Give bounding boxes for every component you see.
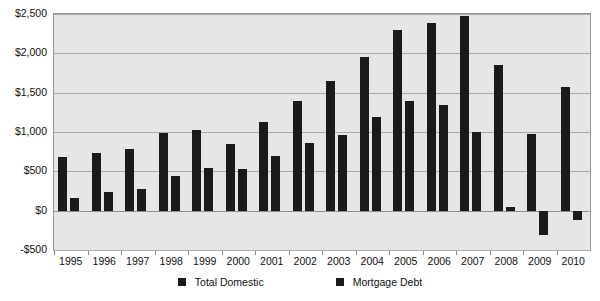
bar-total-domestic-2001 (259, 122, 268, 211)
bar-group (222, 14, 256, 250)
bar-mortgage-debt-1995 (70, 198, 79, 211)
x-tick-mark (423, 251, 424, 255)
x-tick-label: 2000 (222, 256, 256, 267)
bar-group (88, 14, 122, 250)
bar-group (155, 14, 189, 250)
x-tick-mark (255, 251, 256, 255)
x-tick-mark (155, 251, 156, 255)
bar-group (121, 14, 155, 250)
legend-label: Total Domestic (195, 277, 264, 288)
x-tick-mark (322, 251, 323, 255)
bar-group (356, 14, 390, 250)
x-tick-label: 2007 (456, 256, 490, 267)
x-tick-label: 1995 (54, 256, 88, 267)
bar-total-domestic-2008 (494, 65, 503, 211)
bar-mortgage-debt-1999 (204, 168, 213, 211)
x-tick-mark (88, 251, 89, 255)
bar-total-domestic-1996 (92, 153, 101, 210)
bar-group (523, 14, 557, 250)
x-tick-mark (389, 251, 390, 255)
x-tick-label: 2006 (423, 256, 457, 267)
bar-total-domestic-1998 (159, 133, 168, 210)
bar-mortgage-debt-2002 (305, 143, 314, 210)
y-tick-label: $0 (0, 205, 47, 216)
bar-group (423, 14, 457, 250)
x-tick-label: 2001 (255, 256, 289, 267)
x-tick-mark (222, 251, 223, 255)
legend-swatch-icon (178, 278, 186, 286)
x-tick-label: 2010 (557, 256, 591, 267)
bar-group (289, 14, 323, 250)
y-tick-label: -$500 (0, 244, 47, 255)
bar-group (322, 14, 356, 250)
x-tick-label: 1997 (121, 256, 155, 267)
x-tick-mark (188, 251, 189, 255)
y-tick-label: $1,000 (0, 126, 47, 137)
x-tick-label: 2009 (523, 256, 557, 267)
bar-group (188, 14, 222, 250)
bar-mortgage-debt-2004 (372, 117, 381, 211)
x-tick-label: 1996 (88, 256, 122, 267)
bar-total-domestic-2009 (527, 134, 536, 210)
legend-item-mortgage-debt: Mortgage Debt (336, 277, 422, 288)
bar-group (255, 14, 289, 250)
chart-legend: Total DomesticMortgage Debt (0, 277, 600, 288)
y-tick-label: $500 (0, 165, 47, 176)
bar-mortgage-debt-2009 (539, 211, 548, 236)
x-tick-label: 2004 (356, 256, 390, 267)
legend-item-total-domestic: Total Domestic (178, 277, 264, 288)
x-tick-label: 2005 (389, 256, 423, 267)
bar-group (557, 14, 591, 250)
x-tick-mark (523, 251, 524, 255)
x-tick-label: 1999 (188, 256, 222, 267)
x-tick-label: 2008 (490, 256, 524, 267)
bar-mortgage-debt-1998 (171, 176, 180, 211)
bar-mortgage-debt-2008 (506, 207, 515, 211)
bar-total-domestic-1997 (125, 149, 134, 211)
x-tick-mark (557, 251, 558, 255)
bar-mortgage-debt-2003 (338, 135, 347, 211)
bar-mortgage-debt-2007 (472, 132, 481, 211)
bar-mortgage-debt-1997 (137, 189, 146, 211)
x-tick-label: 2003 (322, 256, 356, 267)
bar-total-domestic-2007 (460, 16, 469, 210)
bar-total-domestic-1995 (58, 157, 67, 210)
bar-total-domestic-2003 (326, 81, 335, 211)
x-tick-mark (289, 251, 290, 255)
bar-total-domestic-2010 (561, 87, 570, 211)
x-axis: 1995199619971998199920002001200220032004… (54, 256, 590, 272)
bar-group (389, 14, 423, 250)
y-tick-label: $2,500 (0, 8, 47, 19)
bar-mortgage-debt-1996 (104, 192, 113, 211)
bar-mortgage-debt-2006 (439, 105, 448, 211)
legend-swatch-icon (336, 278, 344, 286)
bars-layer (54, 14, 590, 250)
bar-group (490, 14, 524, 250)
bar-total-domestic-2005 (393, 30, 402, 211)
x-tick-label: 1998 (155, 256, 189, 267)
y-tick-label: $1,500 (0, 87, 47, 98)
bar-mortgage-debt-2005 (405, 101, 414, 210)
bar-total-domestic-1999 (192, 130, 201, 210)
bar-total-domestic-2004 (360, 57, 369, 210)
x-tick-mark (490, 251, 491, 255)
x-tick-mark (121, 251, 122, 255)
bar-total-domestic-2006 (427, 23, 436, 211)
bar-mortgage-debt-2000 (238, 169, 247, 210)
bar-group (456, 14, 490, 250)
y-tick-label: $2,000 (0, 47, 47, 58)
x-tick-mark (356, 251, 357, 255)
bar-total-domestic-2000 (226, 144, 235, 210)
bar-mortgage-debt-2010 (573, 211, 582, 220)
x-tick-mark (456, 251, 457, 255)
x-tick-label: 2002 (289, 256, 323, 267)
bar-chart: $2,500$2,000$1,500$1,000$500$0-$500 1995… (0, 0, 600, 301)
bar-group (54, 14, 88, 250)
bar-total-domestic-2002 (293, 101, 302, 211)
bar-mortgage-debt-2001 (271, 156, 280, 210)
legend-label: Mortgage Debt (353, 277, 422, 288)
x-tick-mark (54, 251, 55, 255)
